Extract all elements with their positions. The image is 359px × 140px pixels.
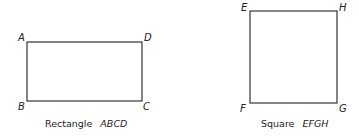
vertex-label-a: A <box>17 32 25 43</box>
rectangle-shape <box>27 42 142 101</box>
vertex-label-b: B <box>18 101 25 112</box>
vertex-label-c: C <box>143 101 150 112</box>
caption-prefix: Rectangle <box>45 118 92 129</box>
geometry-diagram: A B C D Rectangle ABCD E F G H Square EF… <box>0 0 359 140</box>
square-shape <box>250 11 337 103</box>
caption-name: EFGH <box>302 118 328 129</box>
vertex-label-h: H <box>339 2 347 13</box>
vertex-label-d: D <box>144 32 152 43</box>
rectangle-abcd: A B C D Rectangle ABCD <box>17 32 152 129</box>
square-caption: Square EFGH <box>261 118 328 129</box>
vertex-label-g: G <box>339 103 347 114</box>
vertex-label-e: E <box>241 2 248 13</box>
caption-prefix: Square <box>261 118 295 129</box>
square-efgh: E F G H Square EFGH <box>240 2 347 129</box>
vertex-label-f: F <box>240 103 246 114</box>
rectangle-caption: Rectangle ABCD <box>45 118 127 129</box>
caption-name: ABCD <box>99 118 127 129</box>
